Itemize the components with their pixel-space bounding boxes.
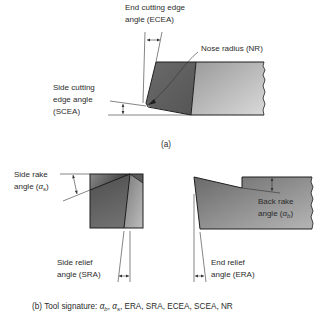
tool-side-view: [194, 177, 313, 229]
nose-radius-label: Nose radius (NR): [201, 44, 263, 54]
tool-insert-face: [146, 62, 196, 115]
end-relief-label-line2: angle (ERA): [211, 270, 255, 280]
back-rake-label-line2: angle (αb): [258, 209, 293, 221]
tool-top-view: [146, 62, 265, 115]
side-relief-label-line1: Side relief: [57, 258, 93, 268]
caption-b: (b) Tool signature: αb, αs, ERA, SRA, EC…: [32, 302, 233, 314]
end-relief-label-line1: End relief: [211, 258, 245, 268]
caption-a: (a): [161, 140, 171, 150]
side-rake-dimension: [60, 174, 90, 201]
scea-label-line2: edge angle: [53, 95, 93, 105]
back-rake-label-line1: Back rake: [258, 197, 294, 207]
ecea-label-line1: End cutting edge: [125, 3, 185, 13]
ecea-label-line2: angle (ECEA): [125, 15, 174, 25]
tool-geometry-diagram: [0, 0, 326, 323]
scea-label-line1: Side cutting: [53, 83, 95, 93]
side-relief-label-line2: angle (SRA): [57, 270, 101, 280]
side-rake-label-line1: Side rake: [14, 170, 48, 180]
tool-end-view: [90, 174, 143, 228]
side-relief-dimension: [118, 231, 130, 282]
scea-label-line3: (SCEA): [53, 107, 80, 117]
tool-shank-face: [191, 62, 265, 115]
side-rake-label-line2: angle (αs): [14, 182, 49, 194]
